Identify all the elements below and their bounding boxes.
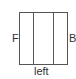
panel-box: [19, 12, 68, 65]
back-label: B: [69, 33, 76, 44]
panel-divider-2: [53, 13, 54, 64]
front-label: F: [12, 33, 19, 44]
view-label: left: [34, 66, 49, 77]
panel-divider-1: [33, 13, 34, 64]
